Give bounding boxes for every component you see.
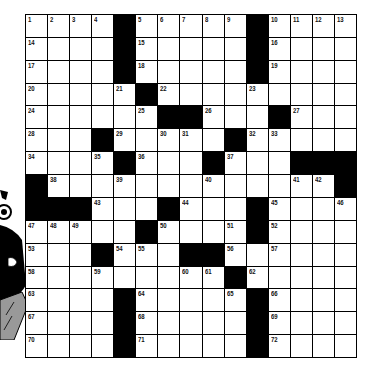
answer-cell[interactable] (70, 152, 91, 174)
answer-cell[interactable]: 24 (26, 106, 47, 128)
answer-cell[interactable] (158, 289, 179, 311)
answer-cell[interactable] (335, 289, 356, 311)
answer-cell[interactable]: 59 (92, 267, 113, 289)
answer-cell[interactable]: 20 (26, 84, 47, 106)
answer-cell[interactable] (291, 221, 312, 243)
answer-cell[interactable]: 2 (48, 15, 69, 37)
answer-cell[interactable] (203, 221, 224, 243)
answer-cell[interactable]: 4 (92, 15, 113, 37)
answer-cell[interactable] (136, 267, 157, 289)
answer-cell[interactable] (313, 267, 334, 289)
answer-cell[interactable] (92, 84, 113, 106)
answer-cell[interactable]: 43 (92, 198, 113, 220)
answer-cell[interactable] (335, 84, 356, 106)
answer-cell[interactable] (48, 312, 69, 334)
answer-cell[interactable] (313, 244, 334, 266)
answer-cell[interactable] (48, 106, 69, 128)
answer-cell[interactable]: 15 (136, 38, 157, 60)
answer-cell[interactable]: 26 (203, 106, 224, 128)
answer-cell[interactable]: 7 (180, 15, 201, 37)
answer-cell[interactable] (313, 106, 334, 128)
answer-cell[interactable]: 62 (247, 267, 268, 289)
answer-cell[interactable] (158, 244, 179, 266)
answer-cell[interactable] (70, 38, 91, 60)
answer-cell[interactable] (203, 84, 224, 106)
answer-cell[interactable] (291, 129, 312, 151)
answer-cell[interactable] (335, 106, 356, 128)
answer-cell[interactable] (48, 335, 69, 357)
answer-cell[interactable]: 30 (158, 129, 179, 151)
answer-cell[interactable] (92, 335, 113, 357)
answer-cell[interactable]: 65 (225, 289, 246, 311)
answer-cell[interactable] (92, 106, 113, 128)
answer-cell[interactable] (92, 312, 113, 334)
answer-cell[interactable] (158, 335, 179, 357)
answer-cell[interactable] (335, 129, 356, 151)
answer-cell[interactable]: 8 (203, 15, 224, 37)
answer-cell[interactable]: 47 (26, 221, 47, 243)
answer-cell[interactable] (48, 61, 69, 83)
answer-cell[interactable] (313, 312, 334, 334)
answer-cell[interactable] (114, 106, 135, 128)
answer-cell[interactable]: 33 (269, 129, 290, 151)
answer-cell[interactable] (70, 106, 91, 128)
answer-cell[interactable] (291, 289, 312, 311)
answer-cell[interactable] (180, 335, 201, 357)
answer-cell[interactable] (70, 129, 91, 151)
answer-cell[interactable]: 32 (247, 129, 268, 151)
answer-cell[interactable]: 49 (70, 221, 91, 243)
answer-cell[interactable] (291, 38, 312, 60)
answer-cell[interactable]: 23 (247, 84, 268, 106)
answer-cell[interactable] (313, 198, 334, 220)
answer-cell[interactable]: 34 (26, 152, 47, 174)
answer-cell[interactable] (225, 312, 246, 334)
answer-cell[interactable]: 70 (26, 335, 47, 357)
answer-cell[interactable]: 44 (180, 198, 201, 220)
answer-cell[interactable]: 69 (269, 312, 290, 334)
answer-cell[interactable] (158, 61, 179, 83)
answer-cell[interactable]: 61 (203, 267, 224, 289)
answer-cell[interactable]: 19 (269, 61, 290, 83)
answer-cell[interactable]: 27 (291, 106, 312, 128)
answer-cell[interactable]: 16 (269, 38, 290, 60)
answer-cell[interactable] (48, 244, 69, 266)
answer-cell[interactable] (92, 289, 113, 311)
answer-cell[interactable] (92, 61, 113, 83)
answer-cell[interactable] (180, 152, 201, 174)
answer-cell[interactable] (92, 175, 113, 197)
answer-cell[interactable] (180, 312, 201, 334)
answer-cell[interactable] (70, 175, 91, 197)
answer-cell[interactable]: 41 (291, 175, 312, 197)
answer-cell[interactable] (291, 267, 312, 289)
answer-cell[interactable] (203, 129, 224, 151)
answer-cell[interactable]: 40 (203, 175, 224, 197)
answer-cell[interactable]: 63 (26, 289, 47, 311)
answer-cell[interactable]: 60 (180, 267, 201, 289)
answer-cell[interactable] (48, 289, 69, 311)
answer-cell[interactable] (269, 175, 290, 197)
answer-cell[interactable]: 46 (335, 198, 356, 220)
answer-cell[interactable] (180, 61, 201, 83)
answer-cell[interactable] (48, 38, 69, 60)
answer-cell[interactable] (335, 312, 356, 334)
answer-cell[interactable] (203, 38, 224, 60)
answer-cell[interactable] (225, 106, 246, 128)
answer-cell[interactable] (313, 38, 334, 60)
answer-cell[interactable] (114, 267, 135, 289)
answer-cell[interactable] (247, 244, 268, 266)
answer-cell[interactable]: 54 (114, 244, 135, 266)
answer-cell[interactable] (313, 335, 334, 357)
answer-cell[interactable] (70, 244, 91, 266)
answer-cell[interactable]: 42 (313, 175, 334, 197)
answer-cell[interactable] (180, 175, 201, 197)
answer-cell[interactable]: 1 (26, 15, 47, 37)
answer-cell[interactable] (48, 152, 69, 174)
answer-cell[interactable]: 36 (136, 152, 157, 174)
answer-cell[interactable]: 17 (26, 61, 47, 83)
answer-cell[interactable]: 5 (136, 15, 157, 37)
answer-cell[interactable] (291, 335, 312, 357)
answer-cell[interactable] (180, 289, 201, 311)
answer-cell[interactable] (291, 198, 312, 220)
answer-cell[interactable] (269, 152, 290, 174)
answer-cell[interactable]: 3 (70, 15, 91, 37)
